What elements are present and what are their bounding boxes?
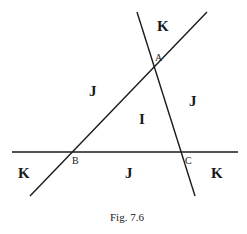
region-label-center-i: I (139, 111, 145, 127)
line-ac (137, 12, 195, 196)
region-label-top-k: K (157, 18, 169, 34)
region-label-bottom-left-k: K (18, 165, 30, 181)
point-label-a: A (155, 52, 163, 63)
region-label-bottom-right-k: K (211, 165, 223, 181)
figure-caption: Fig. 7.6 (110, 211, 144, 223)
point-label-b: B (72, 155, 79, 166)
region-label-bottom-j: J (125, 165, 133, 181)
point-label-c: C (185, 155, 192, 166)
line-ab (30, 12, 207, 196)
region-label-left-j: J (89, 83, 97, 99)
region-label-right-j: J (189, 93, 197, 109)
figure-diagram: A B C K J J I K J K Fig. 7.6 (0, 0, 247, 234)
